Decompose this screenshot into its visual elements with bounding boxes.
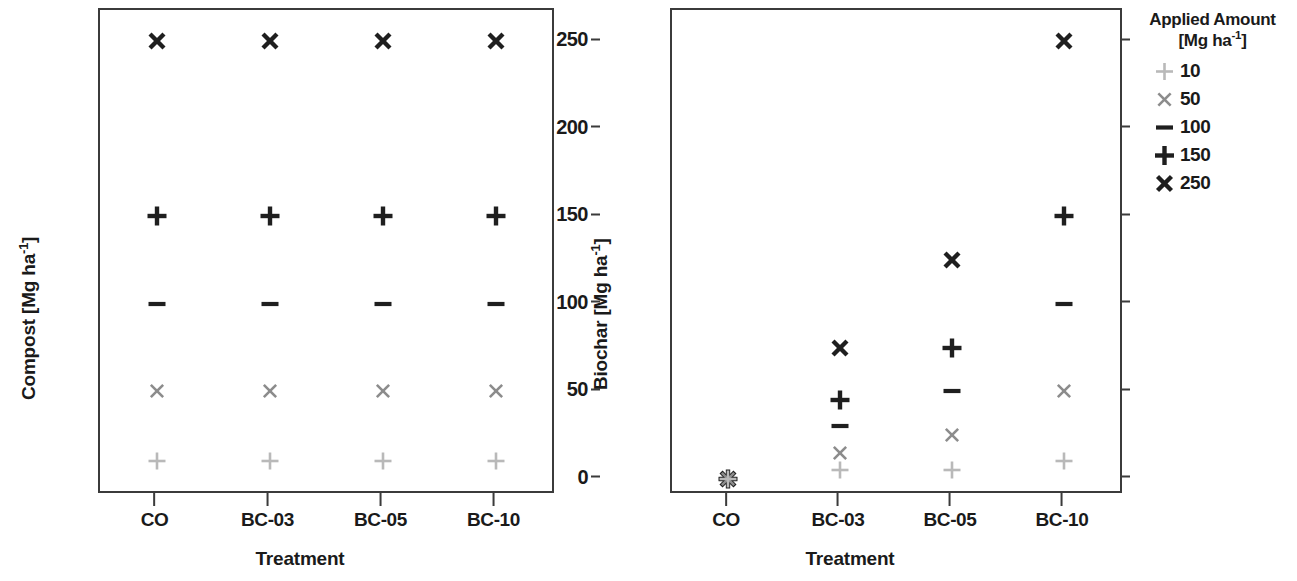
data-point (259, 381, 280, 402)
data-point (484, 292, 507, 315)
x-tick: BC-03 (241, 491, 294, 531)
data-point (1053, 30, 1076, 53)
data-point (829, 336, 852, 359)
data-point (145, 30, 168, 53)
compost-x-axis-label: Treatment (0, 548, 600, 570)
data-point (828, 388, 853, 413)
x-tick: BC-05 (354, 491, 407, 531)
data-point (1052, 204, 1077, 229)
x-tick-label: CO (141, 509, 169, 531)
data-point (371, 450, 394, 473)
legend-marker-icon (1150, 143, 1178, 167)
legend-item: 150 (1150, 141, 1297, 169)
x-tick: BC-10 (1036, 491, 1089, 531)
figure-container: Compost [Mg ha-1] 050100150200250 COBC-0… (0, 0, 1297, 581)
data-point (146, 381, 167, 402)
x-tick-mark (493, 491, 495, 506)
x-tick-mark (725, 491, 727, 506)
x-tick: BC-05 (924, 491, 977, 531)
data-point (717, 467, 740, 490)
data-point (257, 204, 282, 229)
legend-item: 100 (1150, 113, 1297, 141)
legend-label: 150 (1178, 144, 1210, 166)
data-point (258, 292, 281, 315)
data-point (941, 249, 964, 272)
biochar-x-axis-label: Treatment (570, 548, 1130, 570)
legend-item: 50 (1150, 85, 1297, 113)
compost-plot-frame (98, 8, 554, 493)
legend-label: 250 (1178, 172, 1210, 194)
x-tick: CO (141, 491, 169, 531)
compost-panel: Compost [Mg ha-1] 050100150200250 COBC-0… (0, 0, 600, 581)
x-tick-label: BC-10 (1036, 509, 1089, 531)
data-point (829, 415, 852, 438)
data-point (145, 450, 168, 473)
data-point (370, 204, 395, 229)
compost-y-axis-label: Compost [Mg ha-1] (18, 237, 40, 400)
y-tick-mark (1121, 388, 1130, 390)
x-tick-mark (153, 491, 155, 506)
data-point (1054, 381, 1075, 402)
data-point (372, 381, 393, 402)
data-point (484, 450, 507, 473)
x-tick-mark (267, 491, 269, 506)
x-tick: CO (712, 491, 740, 531)
legend-item: 10 (1150, 57, 1297, 85)
data-point (258, 450, 281, 473)
biochar-plot-area (672, 10, 1120, 491)
x-tick-label: BC-05 (924, 509, 977, 531)
x-tick-mark (837, 491, 839, 506)
x-tick-mark (1061, 491, 1063, 506)
biochar-plot-frame (670, 8, 1122, 493)
legend: Applied Amount [Mg ha-1] 1050100150250 (1128, 10, 1297, 197)
legend-items: 1050100150250 (1128, 57, 1297, 197)
data-point (940, 335, 965, 360)
data-point (484, 30, 507, 53)
x-tick-label: BC-03 (812, 509, 865, 531)
x-tick: BC-10 (467, 491, 520, 531)
y-tick-mark (1121, 213, 1130, 215)
data-point (941, 459, 964, 482)
biochar-y-axis-label: Biochar [Mg ha-1] (590, 238, 612, 390)
legend-label: 50 (1178, 88, 1200, 110)
legend-label: 10 (1178, 60, 1200, 82)
legend-label: 100 (1178, 116, 1210, 138)
data-point (258, 30, 281, 53)
data-point (941, 380, 964, 403)
data-point (371, 30, 394, 53)
data-point (829, 459, 852, 482)
y-tick-mark (1121, 301, 1130, 303)
compost-plot-area (100, 10, 552, 491)
legend-marker-icon (1150, 171, 1178, 195)
data-point (485, 381, 506, 402)
data-point (483, 204, 508, 229)
data-point (145, 292, 168, 315)
legend-item: 250 (1150, 169, 1297, 197)
data-point (144, 204, 169, 229)
x-tick: BC-03 (812, 491, 865, 531)
x-tick-label: BC-05 (354, 509, 407, 531)
x-tick-mark (949, 491, 951, 506)
x-tick-label: BC-10 (467, 509, 520, 531)
legend-marker-icon (1150, 87, 1178, 111)
data-point (942, 425, 963, 446)
biochar-panel: Biochar [Mg ha-1] ,0,51,01,52,02,5 COBC-… (570, 0, 1130, 581)
legend-title: Applied Amount [Mg ha-1] (1128, 10, 1297, 51)
x-tick-mark (380, 491, 382, 506)
data-point (1053, 292, 1076, 315)
data-point (371, 292, 394, 315)
x-tick-label: BC-03 (241, 509, 294, 531)
y-tick-mark (1121, 476, 1130, 478)
data-point (1053, 450, 1076, 473)
x-tick-label: CO (712, 509, 740, 531)
legend-marker-icon (1150, 59, 1178, 83)
legend-marker-icon (1150, 115, 1178, 139)
